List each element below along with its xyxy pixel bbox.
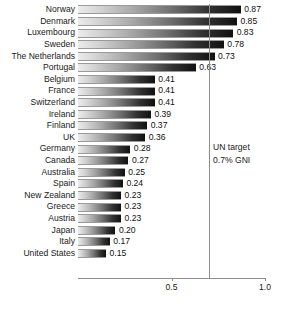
bar-fill: [78, 40, 224, 49]
bar-fill: [78, 145, 130, 154]
bar-row: Greece0.23: [0, 201, 285, 213]
bar-row: Luxembourg0.83: [0, 27, 285, 39]
category-label: United States: [0, 248, 75, 260]
bar-fill: [78, 214, 121, 223]
bar-value-label: 0.39: [151, 109, 171, 121]
bar: [78, 237, 110, 246]
category-label: New Zealand: [0, 190, 75, 202]
un-target-label-line1: UN target: [213, 141, 250, 154]
bar-value-label: 0.27: [128, 155, 148, 167]
bar-fill: [78, 63, 196, 72]
bar-row: Portugal0.63: [0, 62, 285, 74]
bar-value-label: 0.63: [196, 62, 216, 74]
category-label: Denmark: [0, 16, 75, 28]
bar-value-label: 0.23: [121, 213, 141, 225]
category-label: The Netherlands: [0, 51, 75, 63]
bar-value-label: 0.15: [106, 248, 126, 260]
bar-value-label: 0.85: [237, 16, 257, 28]
category-label: Italy: [0, 236, 75, 248]
bar-value-label: 0.17: [110, 236, 130, 248]
bar-fill: [78, 133, 145, 142]
bar-fill: [78, 98, 155, 107]
bar-row: Italy0.17: [0, 236, 285, 248]
category-label: Finland: [0, 120, 75, 132]
bar-fill: [78, 203, 121, 212]
bar-value-label: 0.20: [115, 225, 135, 237]
bar: [78, 87, 155, 96]
bar: [78, 17, 237, 26]
bar-value-label: 0.28: [130, 143, 150, 155]
plot-area: Norway0.87Denmark0.85Luxembourg0.83Swede…: [0, 0, 285, 313]
bar: [78, 110, 151, 119]
bar: [78, 226, 115, 235]
bar-value-label: 0.87: [241, 4, 261, 16]
bar-value-label: 0.25: [125, 167, 145, 179]
bar: [78, 52, 215, 61]
bar-fill: [78, 168, 125, 177]
bar-fill: [78, 156, 128, 165]
bar-row: Finland0.37: [0, 120, 285, 132]
bar: [78, 145, 130, 154]
un-target-reference-line: [209, 4, 210, 278]
bar-row: Ireland0.39: [0, 109, 285, 121]
bar-value-label: 0.37: [147, 120, 167, 132]
category-label: Norway: [0, 4, 75, 16]
category-label: Spain: [0, 178, 75, 190]
x-axis-tick: [265, 278, 266, 282]
bar-row: New Zealand0.23: [0, 190, 285, 202]
bar-value-label: 0.41: [155, 97, 175, 109]
bar-fill: [78, 179, 123, 188]
bar-value-label: 0.41: [155, 85, 175, 97]
bar: [78, 98, 155, 107]
bar-row: Japan0.20: [0, 225, 285, 237]
bar-value-label: 0.73: [215, 51, 235, 63]
category-label: Canada: [0, 155, 75, 167]
category-label: Germany: [0, 143, 75, 155]
bar-row: Belgium0.41: [0, 74, 285, 86]
un-target-label-line2: 0.7% GNI: [213, 154, 250, 167]
bar-row: Austria0.23: [0, 213, 285, 225]
bar-value-label: 0.23: [121, 201, 141, 213]
bar-value-label: 0.78: [224, 39, 244, 51]
category-label: Austria: [0, 213, 75, 225]
bar: [78, 249, 106, 258]
category-label: Australia: [0, 167, 75, 179]
category-label: Japan: [0, 225, 75, 237]
bar: [78, 75, 155, 84]
bar: [78, 121, 147, 130]
bar-value-label: 0.23: [121, 190, 141, 202]
bar-value-label: 0.36: [145, 132, 165, 144]
bar-row: The Netherlands0.73: [0, 51, 285, 63]
category-label: UK: [0, 132, 75, 144]
bar-row: Denmark0.85: [0, 16, 285, 28]
bar: [78, 40, 224, 49]
bar: [78, 168, 125, 177]
bar-fill: [78, 191, 121, 200]
bar-fill: [78, 121, 147, 130]
bar-fill: [78, 5, 241, 14]
bar-value-label: 0.83: [233, 27, 253, 39]
bar-fill: [78, 110, 151, 119]
bar-fill: [78, 249, 106, 258]
bar: [78, 214, 121, 223]
bar-row: Norway0.87: [0, 4, 285, 16]
bar-row: France0.41: [0, 85, 285, 97]
x-axis-tick: [172, 278, 173, 282]
bar-row: Sweden0.78: [0, 39, 285, 51]
bar: [78, 63, 196, 72]
category-label: Sweden: [0, 39, 75, 51]
category-label: Luxembourg: [0, 27, 75, 39]
category-label: France: [0, 85, 75, 97]
bar-value-label: 0.41: [155, 74, 175, 86]
category-label: Belgium: [0, 74, 75, 86]
bar-chart: Norway0.87Denmark0.85Luxembourg0.83Swede…: [0, 0, 285, 313]
bar-fill: [78, 87, 155, 96]
bar-row: Switzerland0.41: [0, 97, 285, 109]
category-label: Portugal: [0, 62, 75, 74]
bar: [78, 133, 145, 142]
bar: [78, 191, 121, 200]
bar-row: Spain0.24: [0, 178, 285, 190]
bar-fill: [78, 52, 215, 61]
category-label: Ireland: [0, 109, 75, 121]
bar-fill: [78, 237, 110, 246]
